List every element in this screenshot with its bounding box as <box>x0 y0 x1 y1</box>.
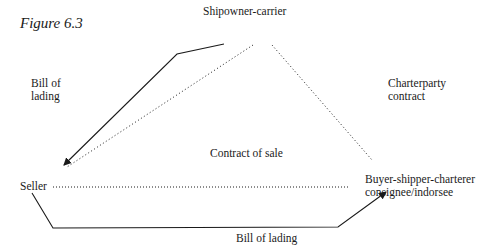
label-bill-of-lading-bottom: Bill of lading <box>236 232 297 245</box>
edge-seller-buyer-bill-of-lading <box>32 192 386 228</box>
label-contract-of-sale: Contract of sale <box>210 147 283 160</box>
edge-shipowner-buyer-charterparty <box>272 45 372 160</box>
label-bill-of-lading-left-2: lading <box>31 90 60 103</box>
node-shipowner-carrier: Shipowner-carrier <box>203 5 286 18</box>
label-charterparty-1: Charterparty <box>388 77 446 90</box>
label-charterparty-2: contract <box>388 90 425 103</box>
diagram-edges <box>0 0 483 250</box>
node-buyer-line2: consignee/indorsee <box>365 186 453 199</box>
label-bill-of-lading-left-1: Bill of <box>31 77 61 90</box>
edge-shipowner-seller-bill-of-lading <box>64 44 224 165</box>
node-seller: Seller <box>20 180 47 193</box>
node-buyer-line1: Buyer-shipper-charterer <box>365 173 475 186</box>
